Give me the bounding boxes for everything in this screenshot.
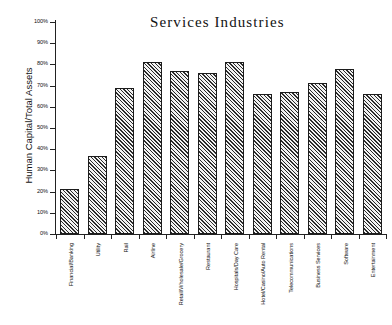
x-axis-tick <box>304 234 305 239</box>
y-axis-tick <box>50 213 56 214</box>
x-axis-label: Retail/Wholesale/Grocery <box>178 243 184 325</box>
x-axis-tick <box>221 234 222 239</box>
x-axis-tick <box>331 234 332 239</box>
bar <box>308 83 327 234</box>
y-axis-tick-label-container: 90% <box>18 39 48 47</box>
x-axis-label: Software <box>343 243 349 325</box>
y-axis-tick-label-container: 20% <box>18 188 48 196</box>
y-axis-tick <box>50 149 56 150</box>
y-axis-tick <box>50 128 56 129</box>
y-axis-tick-label: 20% <box>22 188 48 194</box>
x-axis-label: Hospitals/Day Care <box>233 243 239 325</box>
chart-container: Services Industries Human Capital/Total … <box>0 0 392 325</box>
y-axis-tick-label: 80% <box>22 60 48 66</box>
bar <box>253 94 272 234</box>
y-axis-tick-label-container: 40% <box>18 145 48 153</box>
y-axis-tick <box>50 43 56 44</box>
y-axis-tick-label: 100% <box>22 18 48 24</box>
y-axis-tick <box>50 64 56 65</box>
x-axis-tick <box>276 234 277 239</box>
y-axis-tick-label-container: 0% <box>18 230 48 238</box>
bar <box>280 92 299 234</box>
x-axis-tick <box>84 234 85 239</box>
x-axis-tick <box>249 234 250 239</box>
y-axis-tick-label-container: 30% <box>18 166 48 174</box>
y-axis-tick-label-container: 80% <box>18 60 48 68</box>
y-axis-tick <box>50 192 56 193</box>
x-axis-tick <box>386 234 387 239</box>
bar <box>363 94 382 234</box>
y-axis-tick <box>50 170 56 171</box>
x-axis-label: Telecommunications <box>288 243 294 325</box>
bar <box>115 88 134 234</box>
chart-title: Services Industries <box>150 14 380 31</box>
y-axis-tick-label-container: 60% <box>18 103 48 111</box>
y-axis-tick-label: 50% <box>22 124 48 130</box>
bar <box>60 189 79 234</box>
bar <box>198 73 217 234</box>
x-axis-label: Airline <box>150 243 156 325</box>
x-axis-label: Utility <box>95 243 101 325</box>
bar <box>143 62 162 234</box>
bar <box>88 156 107 234</box>
bar <box>335 69 354 234</box>
x-axis-tick <box>359 234 360 239</box>
y-axis-tick-label: 30% <box>22 166 48 172</box>
y-axis-tick <box>50 22 56 23</box>
bar <box>170 71 189 234</box>
y-axis-tick-label: 40% <box>22 145 48 151</box>
y-axis-tick-label: 90% <box>22 39 48 45</box>
x-axis-tick <box>194 234 195 239</box>
x-axis-label: Restaurant <box>205 243 211 325</box>
y-axis-tick <box>50 86 56 87</box>
x-axis-tick <box>139 234 140 239</box>
y-axis-tick-label-container: 10% <box>18 209 48 217</box>
y-axis-tick-label-container: 50% <box>18 124 48 132</box>
bar <box>225 62 244 234</box>
y-axis-tick-label-container: 100% <box>18 18 48 26</box>
x-axis-label: Financial/Banking <box>68 243 74 325</box>
y-axis-tick-label: 0% <box>22 230 48 236</box>
x-axis-tick <box>111 234 112 239</box>
y-axis-tick <box>50 107 56 108</box>
x-axis-tick <box>56 234 57 239</box>
x-axis-label: Business Services <box>315 243 321 325</box>
y-axis-tick-label: 10% <box>22 209 48 215</box>
y-axis-tick-label: 70% <box>22 82 48 88</box>
x-axis-label: Entertainment <box>370 243 376 325</box>
y-axis-title-container: Human Capital/Total Assets <box>0 0 26 240</box>
x-axis-tick <box>166 234 167 239</box>
x-axis-label: Rail <box>123 243 129 325</box>
y-axis-tick-label-container: 70% <box>18 82 48 90</box>
y-axis-tick-label: 60% <box>22 103 48 109</box>
x-axis-label: Hotel/Casino/Auto Rental <box>260 243 266 325</box>
